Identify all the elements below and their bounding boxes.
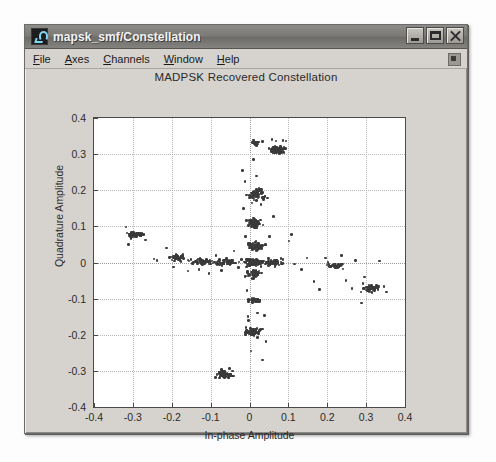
gridline-horizontal [94,371,405,373]
scatter-point [259,261,262,264]
scatter-point [378,260,381,263]
screenshot-root: mapsk_smf/Constellation File Axes Channe… [0,0,496,462]
scatter-point [255,299,258,302]
scatter-point [258,245,261,248]
scatter-point [261,140,264,143]
scatter-point [223,371,226,374]
scatter-plot-axes[interactable]: -0.4-0.3-0.2-0.100.10.20.30.4-0.4-0.3-0.… [93,117,406,408]
scatter-point [385,291,388,294]
scatter-point [257,331,260,334]
scatter-point [263,314,266,317]
scatter-point [240,258,243,261]
scatter-point [251,243,254,246]
scatter-point [250,350,253,353]
scatter-point [252,158,255,161]
x-axis-label: In-phase Amplitude [93,429,406,441]
scatter-point [328,263,331,266]
y-tick-label: -0.4 [68,401,86,413]
scatter-point [153,258,156,261]
scatter-point [260,265,263,268]
scatter-point [225,257,228,260]
menu-item-window[interactable]: Window [164,53,203,65]
scatter-point [260,203,263,206]
figure-panel: MADPSK Recovered Constellation -0.4-0.3-… [27,69,465,431]
scatter-point [271,138,274,141]
y-tick-mark [94,154,98,155]
close-button[interactable] [446,27,464,44]
scatter-point [256,273,259,276]
scatter-point [175,254,178,257]
window-controls [406,27,464,44]
scatter-point [345,279,348,282]
scatter-point [261,328,264,331]
scatter-point [249,327,252,330]
menu-item-axes[interactable]: Axes [65,53,89,65]
scatter-point [253,193,256,196]
scatter-point [266,197,269,200]
menu-item-channels[interactable]: Channels [103,53,150,65]
scatter-point [351,287,354,290]
window-titlebar[interactable]: mapsk_smf/Constellation [25,25,467,49]
scatter-point [371,286,374,289]
chart-title: MADPSK Recovered Constellation [27,71,465,83]
scatter-point [363,276,366,279]
scatter-point [255,175,258,178]
scatter-point [260,192,263,195]
scatter-point [293,263,296,266]
scatter-point [144,239,147,242]
scatter-point [256,248,259,251]
y-axis-label: Quadrature Amplitude [53,116,65,316]
toolbar-toggle-icon[interactable] [448,53,461,66]
scatter-point [174,257,177,260]
scatter-point [208,272,211,275]
scatter-point [256,336,259,339]
scope-icon [31,28,48,45]
scatter-point [340,254,343,257]
scatter-point [275,140,278,143]
scatter-point [354,259,357,262]
scatter-point [143,233,146,236]
y-tick-label: -0.3 [68,365,86,377]
scatter-point [255,199,258,202]
scatter-point [165,247,168,250]
scatter-point [264,244,267,247]
menu-item-help[interactable]: Help [217,53,240,65]
x-tick-mark [366,403,367,407]
x-tick-label: 0.2 [320,411,335,423]
scatter-point [282,139,285,142]
scatter-point [360,302,363,305]
scatter-point [268,235,271,238]
menu-bar: File Axes Channels Window Help [25,49,467,69]
x-tick-mark [327,403,328,407]
scatter-point [272,152,275,155]
x-tick-mark [250,403,251,407]
y-tick-label: 0.2 [71,184,86,196]
scatter-point [251,202,254,205]
y-tick-mark [94,407,98,408]
scatter-point [244,334,247,337]
scatter-point [226,372,229,375]
maximize-button[interactable] [426,27,444,44]
scatter-point [244,180,247,183]
scatter-point [290,233,293,236]
scatter-point [246,270,249,273]
scatter-point [198,268,201,271]
x-tick-label: -0.3 [124,411,142,423]
minimize-button[interactable] [406,27,424,44]
scatter-point [300,268,303,271]
scatter-point [383,285,386,288]
scatter-point [367,287,370,290]
x-tick-label: -0.1 [202,411,220,423]
y-tick-mark [94,263,98,264]
scatter-point [207,260,210,263]
scatter-point [201,260,204,263]
scatter-point [218,377,221,380]
scatter-point [237,266,240,269]
scatter-point [313,280,316,283]
scatter-point [172,266,175,269]
scatter-point [245,266,248,269]
menu-item-file[interactable]: File [33,53,51,65]
y-tick-mark [94,335,98,336]
scatter-point [214,376,217,379]
scatter-point [215,254,218,257]
